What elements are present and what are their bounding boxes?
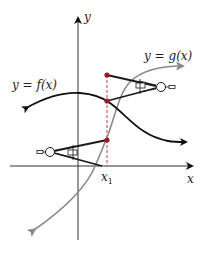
x1-label-base: x — [101, 170, 108, 184]
point-g-lower — [104, 137, 109, 142]
g-curve-label: y = g(x) — [144, 50, 192, 62]
diagram-canvas — [0, 0, 205, 256]
y-axis-label: y — [84, 11, 91, 23]
point-g-upper — [104, 72, 109, 77]
x1-label: x1 — [101, 171, 113, 186]
x1-label-subscript: 1 — [108, 177, 113, 186]
x-axis-label: x — [187, 173, 194, 185]
point-f-x1 — [104, 98, 109, 103]
upper-compass — [107, 75, 175, 101]
f-curve-label: y = f(x) — [12, 79, 57, 91]
function-comparison-diagram: y x y = f(x) y = g(x) x1 — [0, 0, 205, 256]
